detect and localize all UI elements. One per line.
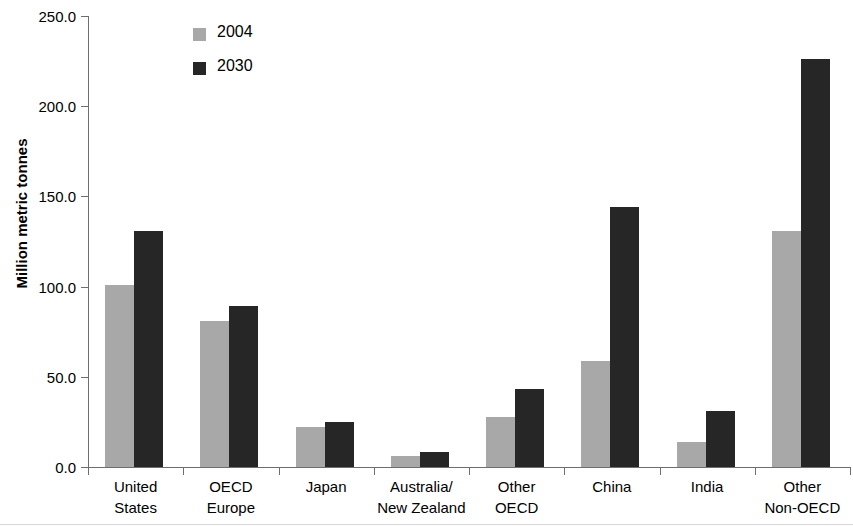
x-axis-category-label: Other OECD (469, 476, 564, 518)
x-axis-category-label: India (660, 476, 755, 497)
y-axis-tick-label: 0.0 (0, 459, 76, 476)
bar-group (755, 16, 850, 467)
bar-2030[interactable] (801, 59, 830, 467)
x-axis-tick (755, 468, 756, 475)
bar-2030[interactable] (420, 452, 449, 467)
x-axis-tick (469, 468, 470, 475)
x-axis-category-label: Other Non-OECD (755, 476, 850, 518)
bar-2004[interactable] (677, 442, 706, 467)
bar-group (279, 16, 374, 467)
bar-group (564, 16, 659, 467)
y-axis-tick (81, 106, 88, 107)
x-axis-tick (279, 468, 280, 475)
y-axis-tick (81, 377, 88, 378)
x-axis-tick (88, 468, 89, 475)
x-axis-category-label: OECD Europe (183, 476, 278, 518)
x-axis-tick (183, 468, 184, 475)
y-axis-tick (81, 16, 88, 17)
bar-group (469, 16, 564, 467)
plot-area (88, 16, 850, 467)
bar-2004[interactable] (296, 427, 325, 467)
bar-2030[interactable] (706, 411, 735, 467)
x-axis-tick (660, 468, 661, 475)
y-axis-tick-label: 50.0 (0, 368, 76, 385)
legend-label: 2030 (217, 57, 253, 75)
bar-2030[interactable] (325, 422, 354, 467)
bar-2030[interactable] (515, 389, 544, 467)
y-axis-tick-label: 150.0 (0, 188, 76, 205)
bar-2004[interactable] (200, 321, 229, 467)
bar-group (183, 16, 278, 467)
y-axis-tick (81, 287, 88, 288)
bar-group (88, 16, 183, 467)
bar-group (660, 16, 755, 467)
bar-2004[interactable] (581, 361, 610, 467)
x-axis-category-label: United States (88, 476, 183, 518)
bar-2030[interactable] (610, 207, 639, 467)
y-axis-tick (81, 196, 88, 197)
bar-chart: Million metric tonnes 250.0200.0150.0100… (0, 0, 853, 526)
legend-label: 2004 (217, 23, 253, 41)
bar-2030[interactable] (134, 231, 163, 467)
bottom-rule (0, 524, 853, 525)
x-axis-tick (564, 468, 565, 475)
x-axis-category-label: China (564, 476, 659, 497)
legend-swatch-2030 (193, 62, 206, 75)
x-axis-category-label: Australia/ New Zealand (374, 476, 469, 518)
bar-2004[interactable] (486, 417, 515, 468)
y-axis-tick-label: 100.0 (0, 278, 76, 295)
y-axis-tick-label: 250.0 (0, 8, 76, 25)
bar-2004[interactable] (772, 231, 801, 467)
x-axis-category-label: Japan (279, 476, 374, 497)
legend-swatch-2004 (193, 28, 206, 41)
bar-2030[interactable] (229, 306, 258, 467)
x-axis-tick (374, 468, 375, 475)
x-axis-tick (850, 468, 851, 475)
y-axis-tick (81, 467, 88, 468)
bar-2004[interactable] (105, 285, 134, 467)
bar-2004[interactable] (391, 456, 420, 467)
y-axis-tick-label: 200.0 (0, 98, 76, 115)
bar-group (374, 16, 469, 467)
